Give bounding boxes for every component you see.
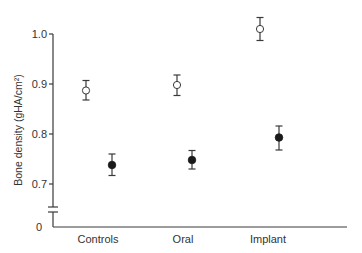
filled-circle-marker [108,161,116,169]
y-axis-ticks: 1.00.90.80.70 [32,28,53,233]
x-category-label: Controls [78,233,119,245]
y-tick-label: 0.7 [32,178,47,190]
data-points [82,18,282,176]
open-circle-marker [173,81,180,88]
data-point-group [275,126,283,150]
filled-circle-marker [275,134,283,142]
y-tick-label: 0.8 [32,128,47,140]
x-category-label: Implant [250,233,286,245]
y-tick-label: 1.0 [32,28,47,40]
open-circle-marker [256,25,263,32]
data-point-group [108,154,116,176]
filled-circle-marker [188,156,196,164]
y-axis-title: Bone density (gHA/cm²) [12,74,24,185]
bone-density-chart: 1.00.90.80.70 ControlsOralImplant Bone d… [0,0,362,253]
axes [48,34,347,227]
data-point-group [188,151,196,170]
x-axis-category-labels: ControlsOralImplant [78,233,287,245]
data-point-group [256,18,263,41]
data-point-group [173,75,180,96]
open-circle-marker [82,87,89,94]
x-category-label: Oral [173,233,194,245]
y-tick-label-zero: 0 [36,221,42,233]
data-point-group [82,81,89,101]
y-tick-label: 0.9 [32,78,47,90]
